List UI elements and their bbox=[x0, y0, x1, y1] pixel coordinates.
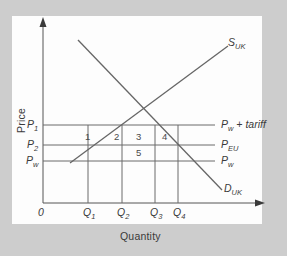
right-label-pw: Pw bbox=[221, 155, 233, 169]
y-tick-p1: P1 bbox=[27, 119, 38, 133]
x-axis-title: Quantity bbox=[120, 231, 161, 242]
right-label-p-eu: PEU bbox=[221, 139, 238, 153]
y-tick-p2-base: P bbox=[27, 138, 34, 150]
supply-curve-label: SUK bbox=[228, 37, 245, 51]
x-tick-q3-sub: 3 bbox=[158, 212, 162, 221]
right-label-peu-base: P bbox=[221, 138, 228, 150]
x-tick-q2-sub: 2 bbox=[125, 212, 129, 221]
region-label-3: 3 bbox=[136, 132, 141, 142]
right-label-pw-tariff-base: P bbox=[221, 118, 228, 130]
region-label-4: 4 bbox=[162, 132, 167, 142]
x-tick-q4: Q4 bbox=[173, 207, 185, 221]
right-label-peu-sub: EU bbox=[228, 144, 238, 153]
y-tick-pw: Pw bbox=[26, 155, 38, 169]
region-label-5: 5 bbox=[136, 148, 141, 158]
y-axis-arrow bbox=[40, 17, 47, 27]
x-axis-arrow bbox=[255, 200, 265, 207]
right-label-pw-plus-tariff: Pw + tariff bbox=[221, 119, 266, 133]
x-tick-q1-sub: 1 bbox=[91, 212, 95, 221]
origin-label: 0 bbox=[38, 207, 44, 218]
figure-page: Price Quantity 0 P1 P2 Pw Q1 Q2 Q3 Q4 Pw… bbox=[0, 0, 287, 256]
x-tick-q3-base: Q bbox=[150, 206, 158, 218]
supply-curve-label-base: S bbox=[228, 36, 235, 48]
y-axis-title: Price bbox=[16, 108, 27, 133]
right-label-pw-base: P bbox=[221, 154, 228, 166]
x-tick-q4-base: Q bbox=[173, 206, 181, 218]
x-tick-q1-base: Q bbox=[83, 206, 91, 218]
y-tick-pw-base: P bbox=[26, 154, 33, 166]
demand-curve-label-base: D bbox=[224, 182, 232, 194]
demand-curve-label-sub: UK bbox=[232, 188, 242, 197]
x-tick-q2: Q2 bbox=[117, 207, 129, 221]
supply-curve-label-sub: UK bbox=[235, 42, 245, 51]
x-tick-q3: Q3 bbox=[150, 207, 162, 221]
y-tick-pw-sub: w bbox=[33, 160, 38, 169]
demand-curve-label: DUK bbox=[224, 183, 242, 197]
y-tick-p2-sub: 2 bbox=[34, 144, 38, 153]
region-label-2: 2 bbox=[114, 132, 119, 142]
region-label-1: 1 bbox=[85, 132, 90, 142]
x-tick-q2-base: Q bbox=[117, 206, 125, 218]
right-label-pw-sub: w bbox=[228, 160, 233, 169]
y-tick-p1-sub: 1 bbox=[34, 124, 38, 133]
x-tick-q1: Q1 bbox=[83, 207, 95, 221]
x-tick-q4-sub: 4 bbox=[181, 212, 185, 221]
right-label-pw-tariff-suffix: + tariff bbox=[233, 118, 265, 130]
y-tick-p2: P2 bbox=[27, 139, 38, 153]
y-tick-p1-base: P bbox=[27, 118, 34, 130]
demand-curve bbox=[78, 40, 222, 190]
